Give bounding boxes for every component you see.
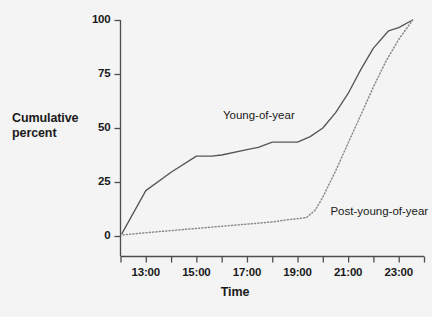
series-line-1	[122, 20, 413, 234]
y-tick-label: 0	[81, 229, 111, 241]
y-tick-label: 50	[81, 121, 111, 133]
series-line-2	[123, 20, 413, 235]
y-tick-label: 75	[81, 67, 111, 79]
x-tick-label: 13:00	[123, 266, 169, 278]
series-label-1: Young-of-year	[223, 109, 295, 121]
x-tick-label: 15:00	[173, 266, 219, 278]
x-tick-label: 21:00	[325, 266, 371, 278]
x-axis-title: Time	[180, 285, 290, 300]
series-label-2: Post-young-of-year	[330, 205, 428, 217]
y-axis-ticks	[115, 21, 121, 237]
cumulative-percent-line-chart: Cumulative percent Time 0255075100 13:00…	[0, 0, 432, 317]
y-tick-label: 25	[81, 175, 111, 187]
y-tick-label: 100	[81, 13, 111, 25]
x-tick-label: 23:00	[376, 266, 422, 278]
x-axis-ticks	[121, 257, 425, 263]
x-tick-label: 17:00	[224, 266, 270, 278]
series-paths	[122, 20, 413, 235]
x-tick-label: 19:00	[275, 266, 321, 278]
